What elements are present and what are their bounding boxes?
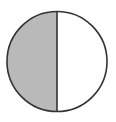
- unshaded-right-half: [57, 12, 107, 112]
- shaded-left-half: [7, 12, 57, 112]
- fraction-circle-diagram: [0, 0, 116, 122]
